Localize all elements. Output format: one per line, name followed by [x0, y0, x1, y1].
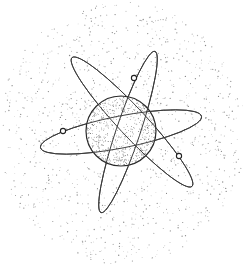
electron-top-icon — [131, 75, 136, 80]
electron-right-icon — [176, 153, 181, 158]
electron-left-icon — [60, 128, 65, 133]
atom-illustration — [0, 0, 246, 278]
